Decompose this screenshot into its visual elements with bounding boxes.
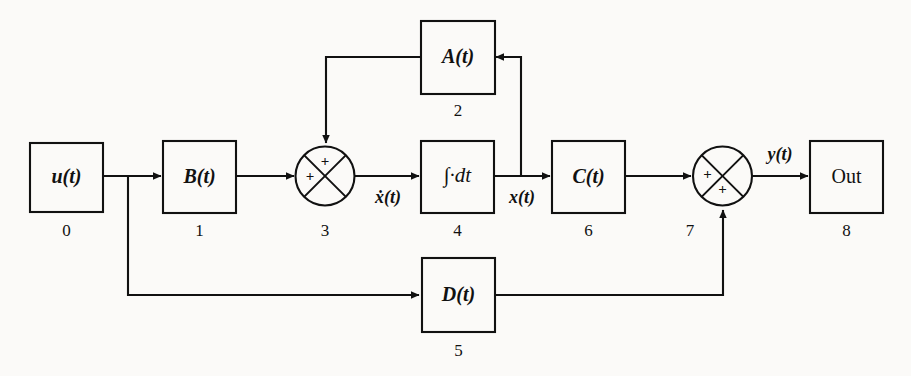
b-gain-block[interactable]: B(t) [163,141,236,213]
wire-a-to-sum3 [326,57,421,143]
wire-x-to-a [496,57,521,176]
sum3-left-sign: + [306,168,315,184]
a-gain-block-index: 2 [454,101,463,120]
input-block[interactable]: u(t) [30,143,103,212]
sum3-top-sign: + [321,153,330,169]
block-diagram-canvas: u(t) 0 B(t) 1 A(t) 2 + + 3 ∫·dt 4 [0,0,911,376]
integrator-block-index: 4 [453,221,462,240]
d-feedthrough-block[interactable]: D(t) [422,258,495,332]
input-block-label: u(t) [52,165,82,188]
c-gain-block-index: 6 [584,221,593,240]
c-gain-block-label: C(t) [572,165,604,188]
sum7-bottom-sign: + [718,181,727,197]
output-summing-junction-index: 7 [686,221,695,240]
b-gain-block-label: B(t) [182,165,215,188]
output-block-label: Out [832,165,862,187]
a-gain-block-label: A(t) [440,45,474,68]
sum7-left-sign: + [703,166,712,182]
output-summing-junction[interactable]: + + [693,147,752,206]
a-gain-block[interactable]: A(t) [421,21,495,94]
output-block-index: 8 [842,221,851,240]
state-signal-label: x(t) [508,187,535,208]
b-gain-block-index: 1 [195,221,204,240]
block-diagram-svg: u(t) 0 B(t) 1 A(t) 2 + + 3 ∫·dt 4 [0,0,911,376]
c-gain-block[interactable]: C(t) [552,141,625,213]
output-signal-label: y(t) [766,144,793,165]
output-block[interactable]: Out [810,141,883,213]
integrator-block[interactable]: ∫·dt [421,141,494,213]
integrator-block-label: ∫·dt [442,163,473,188]
state-summing-junction-index: 3 [321,221,330,240]
d-feedthrough-block-index: 5 [454,341,463,360]
d-feedthrough-block-label: D(t) [441,283,475,306]
state-derivative-signal-label: ẋ(t) [374,187,401,208]
state-summing-junction[interactable]: + + [296,147,355,206]
input-block-index: 0 [62,221,71,240]
